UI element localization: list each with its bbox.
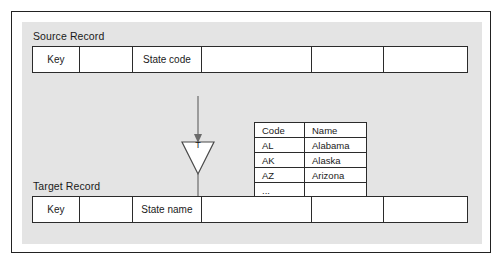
arrowhead-into-transform (194, 134, 202, 143)
source-record-row: Key State code (32, 46, 468, 73)
lookup-cell-name: Alaska (305, 153, 366, 167)
target-cell-blank-1 (80, 197, 133, 222)
target-record-row: Key State name (32, 196, 468, 223)
target-cell-blank-3 (312, 197, 385, 222)
source-cell-state-code: State code (133, 47, 203, 72)
target-cell-blank-4 (384, 197, 467, 222)
source-cell-key: Key (33, 47, 80, 72)
source-cell-blank-3 (312, 47, 385, 72)
diagram-panel: Source Record Key State code T Code (22, 22, 482, 244)
target-cell-state-name: State name (133, 197, 203, 222)
lookup-header-code: Code (255, 123, 305, 137)
lookup-row: AL Alabama (255, 138, 366, 153)
transform-triangle-icon (182, 142, 214, 174)
diagram-frame: Source Record Key State code T Code (11, 11, 491, 253)
target-record-label: Target Record (33, 180, 100, 192)
source-cell-blank-1 (80, 47, 133, 72)
transform-symbol-label: T (172, 140, 224, 150)
lookup-cell-code: AZ (255, 168, 305, 182)
lookup-header-name: Name (305, 123, 366, 137)
lookup-cell-name: Arizona (305, 168, 366, 182)
lookup-cell-name: Alabama (305, 138, 366, 152)
source-record-label: Source Record (33, 30, 104, 42)
lookup-header-row: Code Name (255, 123, 366, 138)
source-cell-blank-4 (384, 47, 467, 72)
lookup-row: AZ Arizona (255, 168, 366, 183)
target-cell-key: Key (33, 197, 80, 222)
lookup-table: Code Name AL Alabama AK Alaska AZ Arizon… (254, 122, 367, 199)
lookup-cell-code: AK (255, 153, 305, 167)
target-cell-blank-2 (202, 197, 312, 222)
lookup-row: AK Alaska (255, 153, 366, 168)
source-cell-blank-2 (202, 47, 312, 72)
lookup-cell-code: AL (255, 138, 305, 152)
